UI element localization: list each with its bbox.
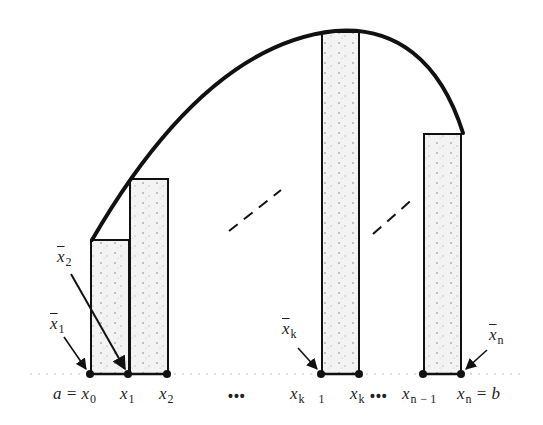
diagram-canvas <box>0 0 543 425</box>
arrow-xbark <box>298 348 317 369</box>
label-xk: xk <box>350 385 365 405</box>
point-xk <box>355 370 363 378</box>
arrow-xbar1 <box>64 337 86 369</box>
continuation-dash-left <box>229 190 281 231</box>
label-xn-minus-1: xn− 1 <box>402 385 436 405</box>
rectangle-n <box>424 134 461 374</box>
label-a-equals-x0: a = x0 <box>53 385 96 405</box>
ellipsis-right: ••• <box>370 389 388 403</box>
label-xbarn: xn <box>489 326 504 346</box>
label-x1: x1 <box>120 385 135 405</box>
label-xk-minus-1: xk1 <box>290 385 325 405</box>
ellipsis-left: ••• <box>228 389 246 403</box>
point-x2 <box>163 370 171 378</box>
rectangle-2 <box>130 179 168 374</box>
rectangle-1 <box>91 240 129 374</box>
riemann-sum-diagram: x1 x2 xk xn a = x0 x1 x2 ••• xk1 xk ••• … <box>0 0 543 425</box>
label-x2: x2 <box>159 385 174 405</box>
point-x1 <box>124 370 132 378</box>
point-xk-minus-1 <box>317 370 325 378</box>
point-xn-minus-1 <box>419 370 427 378</box>
continuation-dash-right <box>373 197 415 234</box>
label-xbar1: x1 <box>50 315 65 335</box>
point-xn <box>457 370 465 378</box>
rectangle-k <box>322 32 359 374</box>
label-xbar2: x2 <box>57 248 72 268</box>
arrow-xbarn <box>466 350 487 369</box>
label-xbark: xk <box>282 320 297 340</box>
label-xn-equals-b: xn = b <box>457 385 500 405</box>
point-x0 <box>86 370 94 378</box>
